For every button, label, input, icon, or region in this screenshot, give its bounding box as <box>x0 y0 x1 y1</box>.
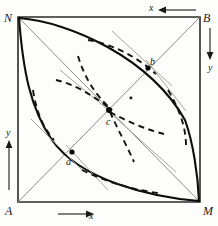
marked-points-group <box>69 65 150 154</box>
axis-label-y-right: y <box>208 63 212 73</box>
vertex-label-N: N <box>4 12 12 24</box>
vertex-label-B: B <box>203 12 210 24</box>
tangent-line-lower-arc-1 <box>31 119 84 172</box>
axis-label-x-top: x <box>149 3 153 13</box>
tangent-line-from-c-lower <box>108 111 176 172</box>
dashed-curve-7 <box>33 90 54 140</box>
axis-y-right-arrowhead <box>207 52 214 60</box>
point-a-marker <box>69 149 74 154</box>
vertex-label-A: A <box>5 205 12 217</box>
tangent-line-upper-arc-1 <box>112 31 172 86</box>
vertex-label-M: M <box>203 205 213 217</box>
dashed-curve-5 <box>110 112 164 134</box>
axis-y-left-arrowhead <box>6 140 13 148</box>
figure-canvas <box>0 0 218 226</box>
tangent-line-at-b <box>146 60 186 111</box>
geometry-figure: N B A M a b c x x y y <box>0 0 218 226</box>
dashed-curve-6 <box>110 112 134 162</box>
point-label-a: a <box>66 157 71 167</box>
axis-label-x-bottom: x <box>89 211 93 221</box>
point-label-b: b <box>150 57 155 67</box>
point-label-c: c <box>106 117 110 127</box>
point-c-marker <box>106 107 112 113</box>
axis-x-top-arrowhead <box>158 7 166 14</box>
axis-label-y-left: y <box>6 128 10 138</box>
isolated-dot-marker <box>130 97 133 100</box>
